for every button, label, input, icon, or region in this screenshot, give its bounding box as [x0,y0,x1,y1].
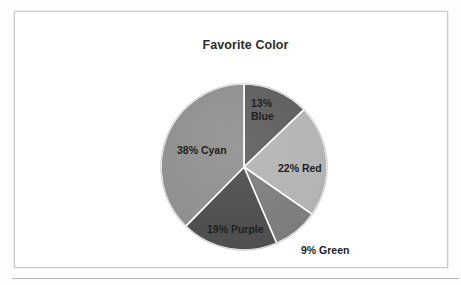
slice-label-cyan: 38% Cyan [177,144,227,157]
slice-label-green: 9% Green [301,244,349,257]
slice-label-red: 22% Red [278,162,322,175]
slice-label-blue-line2: Blue [251,110,274,122]
slice-label-purple: 19% Purple [207,223,264,236]
pie-chart-plot-area: 13%Blue 22% Red 9% Green 19% Purple 38% … [29,23,461,280]
slice-label-blue: 13%Blue [251,97,274,123]
slice-label-blue-line1: 13% [251,97,272,109]
bottom-separator-rule [12,278,459,279]
chart-frame: Favorite Color 13%Blue 22% Red 9% Green … [14,11,448,268]
